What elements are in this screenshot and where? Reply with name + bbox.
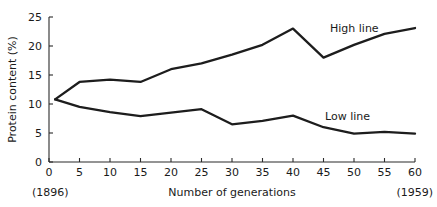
x-tick-label: 25 bbox=[195, 166, 209, 179]
x-tick-label: 15 bbox=[134, 166, 148, 179]
x-tick-label: 5 bbox=[76, 166, 83, 179]
x-axis-ticks: 051015202530354045505560 bbox=[46, 158, 423, 179]
x-tick-label: 60 bbox=[408, 166, 422, 179]
y-tick-label: 0 bbox=[35, 156, 42, 169]
y-tick-label: 25 bbox=[28, 11, 42, 24]
x-tick-label: 40 bbox=[286, 166, 300, 179]
x-tick-label: 0 bbox=[46, 166, 53, 179]
x-tick-label: 55 bbox=[378, 166, 392, 179]
chart-container: 0510152025 051015202530354045505560 High… bbox=[0, 0, 437, 207]
axes bbox=[49, 17, 415, 162]
series-labels: High lineLow line bbox=[325, 22, 379, 123]
y-tick-label: 15 bbox=[28, 69, 42, 82]
y-tick-label: 10 bbox=[28, 98, 42, 111]
y-tick-label: 5 bbox=[35, 127, 42, 140]
series-label-high-line: High line bbox=[330, 22, 379, 35]
x-tick-label: 20 bbox=[164, 166, 178, 179]
start-year-annotation: (1896) bbox=[32, 186, 69, 199]
x-tick-label: 35 bbox=[256, 166, 270, 179]
x-axis-title: Number of generations bbox=[168, 186, 296, 199]
x-tick-label: 30 bbox=[225, 166, 239, 179]
series-label-low-line: Low line bbox=[325, 110, 370, 123]
x-tick-label: 50 bbox=[347, 166, 361, 179]
x-tick-label: 10 bbox=[103, 166, 117, 179]
y-tick-label: 20 bbox=[28, 40, 42, 53]
line-chart: 0510152025 051015202530354045505560 High… bbox=[0, 0, 437, 207]
y-axis-title: Protein content (%) bbox=[6, 36, 19, 143]
series-line-high-line bbox=[55, 28, 415, 99]
x-tick-label: 45 bbox=[317, 166, 331, 179]
end-year-annotation: (1959) bbox=[396, 186, 433, 199]
